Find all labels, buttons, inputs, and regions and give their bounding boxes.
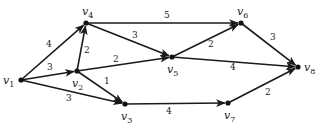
node-label-v1: v1 <box>3 74 14 89</box>
edge-weight-label: 3 <box>132 30 138 40</box>
node-v5 <box>169 54 174 59</box>
node-label-v3: v3 <box>121 110 132 125</box>
node-label-v4: v4 <box>82 5 93 20</box>
node-v8 <box>295 64 300 69</box>
node-v7 <box>225 100 230 105</box>
graph-diagram: 4332215324342 v1v2v3v4v5v6v7v8 <box>0 0 320 129</box>
edge-weight-label: 3 <box>66 93 72 103</box>
node-label-v5: v5 <box>167 63 178 78</box>
edge-v6-v8 <box>241 23 295 65</box>
edge-weight-label: 4 <box>230 62 236 72</box>
node-label-v2: v2 <box>72 77 83 92</box>
node-v4 <box>83 20 88 25</box>
edge-weight-label: 3 <box>47 62 53 72</box>
edge-v7-v8 <box>228 68 295 103</box>
edge-weight-label: 2 <box>113 54 119 64</box>
node-v3 <box>122 101 127 106</box>
edge-weight-label: 2 <box>84 45 90 55</box>
node-v1 <box>18 77 23 82</box>
edge-weight-label: 1 <box>104 76 110 86</box>
edge-weight-label: 2 <box>265 87 271 97</box>
edge-weight-label: 2 <box>208 39 214 49</box>
edge-weight-label: 3 <box>270 32 276 42</box>
edge-v3-v7 <box>125 103 225 104</box>
node-label-v8: v8 <box>304 61 315 76</box>
edge-weight-label: 4 <box>166 106 172 116</box>
node-v2 <box>74 68 79 73</box>
edges-group: 4332215324342 <box>21 10 295 116</box>
node-label-v6: v6 <box>237 5 248 20</box>
node-label-v7: v7 <box>224 109 235 124</box>
edge-v5-v6 <box>172 24 238 57</box>
edge-weight-label: 4 <box>46 39 52 49</box>
edge-v4-v5 <box>86 23 169 56</box>
node-v6 <box>238 20 243 25</box>
edge-v2-v5 <box>77 57 169 71</box>
edge-weight-label: 5 <box>164 10 170 20</box>
